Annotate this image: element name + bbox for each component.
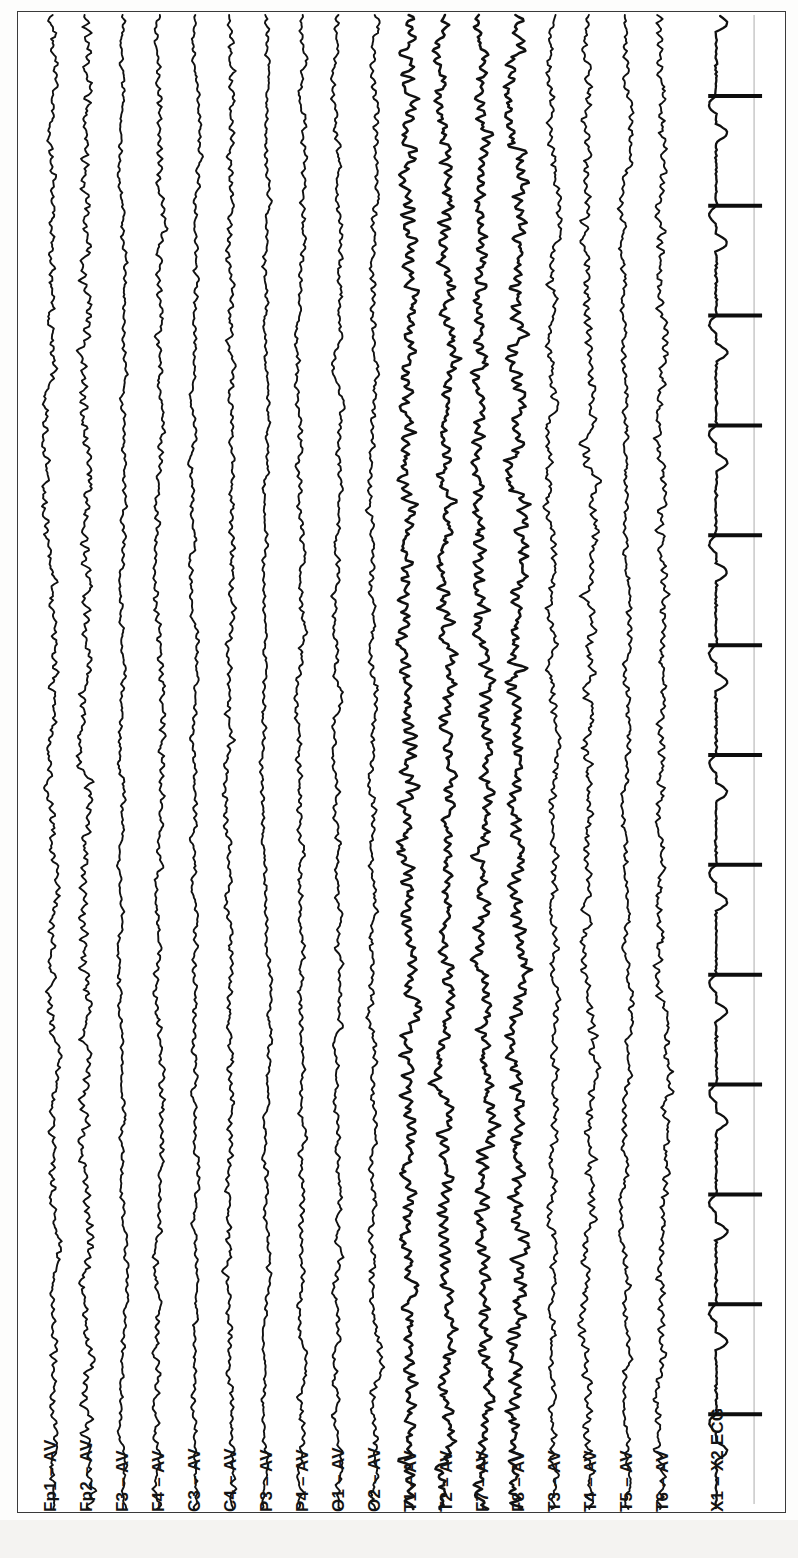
channel-label-t3: T3 – AV [546,1450,563,1512]
channel-label-c4: C4 – AV [222,1448,239,1512]
eeg-waveform [77,15,97,1509]
channel-label-c3: C3 – AV [186,1448,203,1512]
ecg-waveform [709,16,728,1508]
eeg-waveform [471,15,500,1509]
eeg-waveform [42,15,62,1509]
channel-label-x1-x2: X1 – X2 ECG [709,1408,726,1512]
eeg-waveform [188,15,203,1509]
channel-label-f8: F8 – AV [510,1450,527,1512]
eeg-waveform [222,15,236,1509]
eeg-trace-o2 [366,15,384,1509]
eeg-trace-f7 [471,15,500,1509]
channel-label-t6: T6 – AV [654,1450,671,1512]
eeg-trace-f4 [152,15,167,1509]
eeg-waveform [653,15,673,1509]
channel-label-p4: P4 – AV [294,1449,311,1512]
channel-label-o2: O2 – AV [366,1447,383,1512]
page-margin [0,1520,798,1558]
paper-sheet: Fp1 – AVFp2 – AVF3 – AVF4 – AVC3 – AVC4 … [0,0,798,1520]
eeg-waveform [397,15,422,1509]
eeg-trace-f8 [504,15,532,1509]
eeg-trace-t2 [429,15,461,1509]
eeg-waveform [578,15,601,1509]
eeg-trace-t6 [653,15,673,1509]
eeg-trace-fp2 [77,15,97,1509]
recording-frame [17,11,786,1513]
eeg-trace-c4 [222,15,236,1509]
channel-label-t4: T4 – AV [582,1450,599,1512]
channel-label-o1: O1 – AV [330,1447,347,1512]
eeg-waveform [294,15,307,1509]
eeg-trace-t4 [578,15,601,1509]
channel-label-t5: T5 – AV [618,1450,635,1512]
eeg-traces-canvas [18,12,785,1512]
eeg-trace-fp1 [42,15,62,1509]
eeg-waveform [429,15,461,1509]
eeg-trace-o1 [331,15,345,1509]
eeg-trace-t1 [397,15,422,1509]
eeg-trace-t3 [543,15,561,1509]
channel-label-fp2: Fp2 – AV [78,1440,95,1512]
eeg-trace-t5 [618,15,634,1509]
eeg-trace-c3 [188,15,203,1509]
eeg-trace-p4 [294,15,307,1509]
eeg-trace-p3 [259,15,272,1509]
eeg-waveform [117,15,129,1509]
eeg-trace-f3 [117,15,129,1509]
channel-label-f3: F3 – AV [114,1450,131,1512]
eeg-waveform [259,15,272,1509]
channel-label-f4: F4 – AV [150,1450,167,1512]
eeg-waveform [152,15,167,1509]
eeg-waveform [366,15,384,1509]
traces-svg [18,12,785,1512]
channel-label-t1: T1 – AV [402,1450,419,1512]
eeg-page: Fp1 – AVFp2 – AVF3 – AVF4 – AVC3 – AVC4 … [0,0,798,1558]
channel-label-fp1: Fp1 – AV [42,1440,59,1512]
eeg-waveform [331,15,345,1509]
eeg-waveform [504,15,532,1509]
channel-label-p3: P3 – AV [258,1449,275,1512]
channel-label-t2: T2 – AV [438,1450,455,1512]
eeg-waveform [618,15,634,1509]
eeg-waveform [543,15,561,1509]
channel-label-f7: F7 – AV [474,1450,491,1512]
